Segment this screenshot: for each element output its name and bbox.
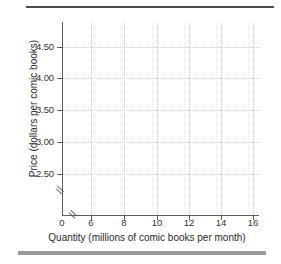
figure-container: 4.50 4.00 3.50 3.00 2.50 0 6 8 10 12 14 …	[0, 0, 281, 264]
y-tick-mark	[57, 174, 63, 175]
gridline-horizontal	[63, 78, 259, 79]
gridline-vertical	[221, 22, 222, 215]
gridline-horizontal	[63, 47, 259, 48]
y-tick-mark	[57, 142, 63, 143]
gridline-vertical	[91, 22, 92, 215]
y-tick-mark	[57, 78, 63, 79]
top-divider-rule	[26, 6, 274, 8]
gridline-horizontal	[63, 174, 259, 175]
gridline-vertical	[253, 22, 254, 215]
gridline-vertical	[157, 22, 158, 215]
y-tick-mark	[57, 47, 63, 48]
x-tick-label: 0	[50, 217, 74, 228]
x-tick-label: 8	[112, 217, 136, 228]
x-tick-label: 12	[177, 217, 201, 228]
x-axis-label: Quantity (millions of comic books per mo…	[32, 232, 262, 243]
x-tick-label: 14	[209, 217, 233, 228]
x-tick-label: 6	[79, 217, 103, 228]
x-tick-label: 16	[241, 217, 265, 228]
x-tick-label: 10	[145, 217, 169, 228]
y-axis-label: Price (dollars per comic books)	[28, 14, 39, 204]
y-axis-line	[62, 22, 63, 216]
bottom-divider-rule	[18, 251, 266, 255]
gridline-horizontal	[63, 110, 259, 111]
gridline-horizontal	[63, 142, 259, 143]
gridline-vertical	[124, 22, 125, 215]
y-axis-break-icon: //	[54, 185, 67, 196]
gridline-vertical	[189, 22, 190, 215]
y-tick-mark	[57, 110, 63, 111]
